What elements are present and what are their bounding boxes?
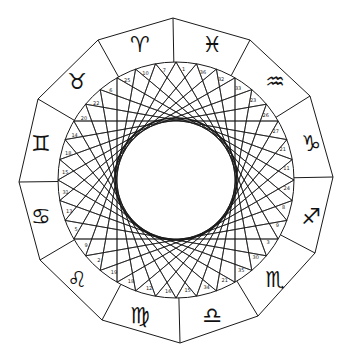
- division-label: 33: [235, 85, 241, 91]
- outer-dodecagon: [19, 18, 333, 343]
- zodiac-capricorn-icon: ♑: [301, 131, 321, 156]
- division-label: 6: [109, 87, 112, 93]
- sign-divider-line: [38, 99, 74, 120]
- division-label: 1: [182, 66, 185, 72]
- division-ring-circle: [58, 62, 294, 298]
- chord-line: [65, 104, 266, 139]
- sign-dividers: [19, 18, 333, 343]
- division-label: 15: [62, 169, 68, 175]
- division-label: 13: [66, 208, 72, 214]
- division-label: 21: [222, 277, 228, 283]
- division-label: 15: [184, 287, 190, 293]
- division-label: 21: [280, 146, 286, 152]
- chord-line: [100, 69, 135, 270]
- sign-divider-line: [294, 177, 333, 178]
- zodiac-sign-glyphs: ♈♓♒♑♐♏♎♍♌♋♊♉: [31, 32, 321, 327]
- zodiac-aries-icon: ♈: [130, 32, 150, 57]
- division-label: 14: [71, 132, 77, 138]
- zodiac-scorpio-icon: ♏: [265, 267, 285, 292]
- sign-divider-line: [179, 298, 180, 343]
- division-label: 9: [85, 242, 88, 248]
- chord-line: [86, 104, 287, 139]
- chord-line: [65, 220, 266, 255]
- string-art-chords: [58, 62, 294, 298]
- sign-divider-line: [231, 40, 250, 76]
- division-label: 19: [111, 269, 117, 275]
- zodiac-pisces-icon: ♓: [202, 32, 222, 57]
- division-label: 22: [93, 100, 99, 106]
- division-label: 26: [263, 112, 269, 118]
- division-label: 25: [124, 77, 130, 83]
- zodiac-aquarius-icon: ♒: [265, 69, 285, 94]
- chord-line: [216, 69, 251, 270]
- chord-line: [86, 220, 287, 255]
- division-label: 11: [283, 165, 289, 171]
- zodiac-leo-icon: ♌: [67, 267, 87, 292]
- zodiac-gemini-icon: ♊: [31, 131, 51, 156]
- division-label: 20: [81, 115, 87, 121]
- zodiac-wheel-diagram: ♈♓♒♑♐♏♎♍♌♋♊♉ 136323323262721112489330352…: [0, 0, 348, 358]
- sign-divider-line: [173, 18, 174, 62]
- division-label: 8: [282, 204, 285, 210]
- division-label: 9: [276, 222, 279, 228]
- zodiac-cancer-icon: ♋: [31, 204, 51, 229]
- division-label: 18: [65, 150, 71, 156]
- division-label: 16: [165, 288, 171, 294]
- division-label: 3: [266, 239, 269, 245]
- division-label: 32: [218, 76, 224, 82]
- zodiac-sagittarius-icon: ♐: [301, 204, 321, 229]
- division-label: 7: [163, 67, 166, 73]
- zodiac-virgo-icon: ♍: [130, 303, 150, 328]
- division-label: 18: [128, 278, 134, 284]
- sign-divider-line: [276, 96, 310, 117]
- division-label: 10: [142, 70, 148, 76]
- division-label: 30: [253, 254, 259, 260]
- division-label: 34: [203, 284, 209, 290]
- inner-circle: [115, 118, 237, 240]
- sign-divider-line: [280, 235, 315, 253]
- division-label: 31: [62, 189, 68, 195]
- division-label: 23: [250, 97, 256, 103]
- division-label: 5: [75, 226, 78, 232]
- sign-divider-line: [40, 240, 74, 260]
- chord-line: [100, 90, 135, 291]
- chord-line: [216, 90, 251, 291]
- division-label: 36: [200, 69, 206, 75]
- zodiac-libra-icon: ♎: [202, 303, 222, 328]
- division-label: 24: [284, 185, 290, 191]
- sign-divider-line: [98, 40, 119, 77]
- division-label: 27: [273, 128, 279, 134]
- division-label: 12: [146, 285, 152, 291]
- zodiac-taurus-icon: ♉: [67, 69, 87, 94]
- division-label: 2: [97, 257, 100, 263]
- dodecagon-outline: [19, 18, 333, 343]
- division-number-labels: 1363233232627211124893303521341516121819…: [62, 66, 290, 293]
- division-label: 35: [238, 267, 244, 273]
- sign-divider-line: [102, 284, 121, 320]
- sign-divider-line: [237, 281, 258, 316]
